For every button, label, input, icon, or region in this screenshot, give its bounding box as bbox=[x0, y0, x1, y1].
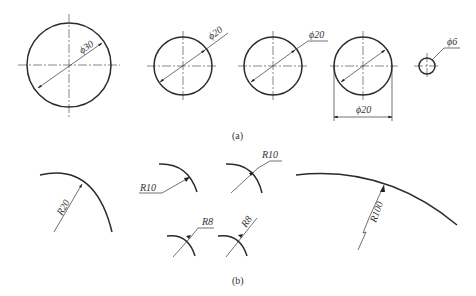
circle-d30-group: ϕ30 bbox=[18, 14, 120, 118]
dimension-label: ϕ6 bbox=[447, 36, 457, 47]
dimension-label: R10 bbox=[261, 149, 278, 160]
circle-d20-c-group: ϕ20 bbox=[330, 31, 398, 121]
dimension-label: ϕ20 bbox=[356, 104, 371, 115]
arc-outline bbox=[159, 164, 197, 192]
circle-d20-b-group: ϕ20 bbox=[238, 29, 328, 101]
arc-outline bbox=[40, 173, 112, 232]
arc-r10-a-group: R10 bbox=[139, 164, 197, 193]
dimension-label: R8 bbox=[238, 214, 254, 230]
dimension-label: ϕ20 bbox=[206, 24, 225, 42]
dimension-label: R8 bbox=[201, 216, 213, 227]
diameter-dimension-line bbox=[38, 43, 102, 88]
circle-d20-a-group: ϕ20 bbox=[147, 24, 228, 101]
arc-outline bbox=[218, 236, 247, 256]
dimension-label: R20 bbox=[54, 198, 72, 218]
arc-r8-a-group: R8 bbox=[167, 216, 214, 257]
arrow-head bbox=[186, 235, 191, 239]
dimension-label: R100 bbox=[367, 200, 385, 225]
arrow-head bbox=[380, 185, 385, 192]
circle-d6-group: ϕ6 bbox=[414, 36, 460, 79]
arc-r100-group: R100 bbox=[296, 174, 457, 250]
arc-r20-group: R20 bbox=[40, 173, 112, 232]
leader-shoulder bbox=[432, 48, 460, 60]
dimension-label: ϕ30 bbox=[77, 38, 96, 56]
leader-shoulder bbox=[295, 41, 328, 50]
dimension-label: R10 bbox=[139, 182, 156, 193]
dimension-label: ϕ20 bbox=[309, 29, 324, 40]
arc-r8-b-group: R8 bbox=[218, 214, 257, 257]
arc-outline bbox=[226, 164, 262, 193]
caption-a: (a) bbox=[232, 130, 243, 142]
arrow-head bbox=[184, 177, 190, 182]
caption-b: (b) bbox=[232, 275, 244, 287]
arc-r10-b-group: R10 bbox=[226, 149, 282, 193]
arc-outline bbox=[167, 236, 195, 256]
dimensioning-diagram: ϕ30 ϕ20 ϕ20 ϕ20 ϕ6 (a) bbox=[0, 0, 476, 296]
